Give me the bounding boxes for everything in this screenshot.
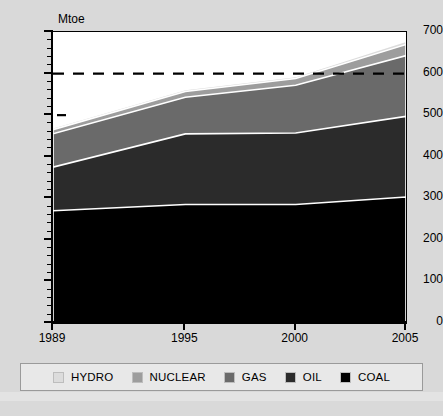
legend-swatch-coal-icon [340, 372, 351, 383]
y-minor-tick-360 [47, 172, 53, 173]
legend-swatch-gas-icon [224, 372, 235, 383]
y-minor-tick-220 [47, 231, 53, 232]
y-minor-tick-20 [47, 314, 53, 315]
legend-item-coal[interactable]: COAL [340, 371, 390, 383]
y-tick-700 [44, 30, 53, 32]
y-minor-tick-280 [47, 206, 53, 207]
y-tick-100 [44, 279, 53, 281]
y-tick-label-200: 200 [403, 232, 443, 244]
bottom-strip [0, 392, 443, 401]
legend-label-gas: GAS [242, 371, 267, 383]
y-minor-tick-320 [47, 189, 53, 190]
y-tick-label-500: 500 [403, 107, 443, 119]
y-minor-tick-260 [47, 214, 53, 215]
x-tick-label-1995: 1995 [154, 331, 214, 345]
x-tick-1995 [183, 322, 185, 330]
y-minor-tick-620 [47, 64, 53, 65]
y-minor-tick-380 [47, 164, 53, 165]
x-tick-2000 [294, 322, 296, 330]
y-minor-tick-240 [47, 222, 53, 223]
x-axis-line [51, 321, 407, 323]
series-group [53, 41, 406, 323]
y-tick-label-600: 600 [403, 66, 443, 78]
legend-label-oil: OIL [303, 371, 322, 383]
y-minor-tick-140 [47, 264, 53, 265]
y-tick-300 [44, 196, 53, 198]
y-minor-tick-180 [47, 247, 53, 248]
legend-item-gas[interactable]: GAS [224, 371, 267, 383]
x-tick-label-1989: 1989 [22, 331, 82, 345]
y-axis-unit-label: Mtoe [58, 12, 85, 26]
y-tick-400 [44, 155, 53, 157]
y-tick-label-400: 400 [403, 149, 443, 161]
x-tick-1989 [51, 322, 53, 330]
y-tick-label-0: 0 [403, 315, 443, 327]
legend-swatch-oil-icon [285, 372, 296, 383]
y-minor-tick-80 [47, 289, 53, 290]
y-minor-tick-540 [47, 98, 53, 99]
y-tick-200 [44, 238, 53, 240]
y-minor-tick-480 [47, 122, 53, 123]
y-minor-tick-460 [47, 131, 53, 132]
chart-screenshot: Mtoe 0100200300400500600700 198919952000… [0, 0, 443, 416]
legend-swatch-hydro-icon [53, 372, 64, 383]
y-tick-label-300: 300 [403, 190, 443, 202]
y-minor-tick-60 [47, 297, 53, 298]
y-tick-500 [44, 113, 53, 115]
area-series-coal [53, 197, 406, 323]
x-tick-label-2005: 2005 [375, 331, 435, 345]
y-minor-tick-40 [47, 305, 53, 306]
stacked-area-plot [53, 32, 406, 323]
legend-item-oil[interactable]: OIL [285, 371, 322, 383]
y-minor-tick-640 [47, 56, 53, 57]
y-tick-label-700: 700 [403, 24, 443, 36]
x-tick-label-2000: 2000 [265, 331, 325, 345]
y-minor-tick-340 [47, 181, 53, 182]
y-minor-tick-420 [47, 147, 53, 148]
y-minor-tick-520 [47, 106, 53, 107]
chart-legend: HYDRONUCLEARGASOILCOAL [20, 363, 423, 391]
legend-label-coal: COAL [358, 371, 390, 383]
legend-swatch-nuclear-icon [132, 372, 143, 383]
y-tick-label-100: 100 [403, 273, 443, 285]
legend-item-hydro[interactable]: HYDRO [53, 371, 114, 383]
legend-label-nuclear: NUCLEAR [150, 371, 206, 383]
y-minor-tick-580 [47, 81, 53, 82]
legend-label-hydro: HYDRO [71, 371, 114, 383]
y-minor-tick-680 [47, 39, 53, 40]
y-minor-tick-120 [47, 272, 53, 273]
y-minor-tick-160 [47, 255, 53, 256]
y-minor-tick-440 [47, 139, 53, 140]
legend-item-nuclear[interactable]: NUCLEAR [132, 371, 206, 383]
x-tick-2005 [404, 322, 406, 330]
y-minor-tick-560 [47, 89, 53, 90]
y-minor-tick-660 [47, 48, 53, 49]
y-tick-600 [44, 72, 53, 74]
plot-area [52, 31, 407, 324]
